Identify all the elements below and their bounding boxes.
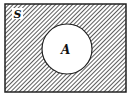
- set-a-label: A: [60, 43, 70, 57]
- universal-set-label: S: [14, 8, 22, 21]
- venn-diagram: S A: [0, 0, 131, 97]
